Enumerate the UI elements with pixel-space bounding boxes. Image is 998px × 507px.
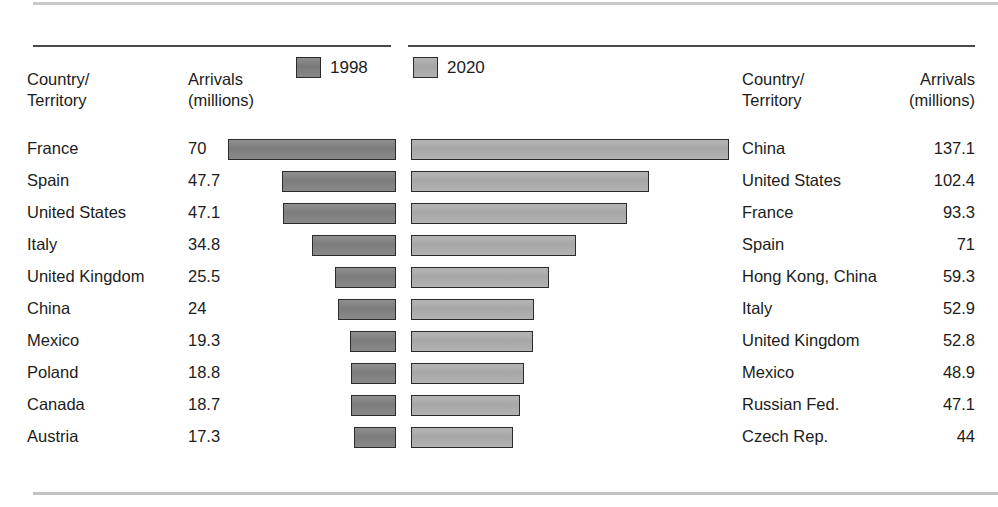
right-arrivals-value: 137.1 [886,138,975,159]
bar-2020 [411,427,513,448]
tourism-arrivals-figure: Country/ Territory Arrivals (millions) C… [0,0,998,507]
left-arrivals-value: 18.8 [188,362,220,383]
legend-swatch-2020-icon [413,57,438,78]
left-arrivals-value: 47.7 [188,170,220,191]
bar-2020 [411,139,729,160]
bar-1998 [350,331,396,352]
bar-1998 [335,267,396,288]
right-country-label: Russian Fed. [742,394,839,415]
legend-item-1998: 1998 [296,57,368,78]
table-row: Austria17.3Czech Rep.44 [0,424,998,456]
right-arrivals-value: 93.3 [886,202,975,223]
right-arrivals-value: 52.8 [886,330,975,351]
bar-2020 [411,171,649,192]
bar-1998 [351,363,396,384]
bar-2020 [411,267,549,288]
right-country-label: Italy [742,298,772,319]
right-arrivals-value: 48.9 [886,362,975,383]
right-country-label: Hong Kong, China [742,266,877,287]
bar-2020 [411,203,627,224]
header-right-arrivals: Arrivals (millions) [886,69,975,111]
right-country-label: Spain [742,234,784,255]
table-row: France70China137.1 [0,136,998,168]
left-country-label: Canada [27,394,85,415]
bar-1998 [283,203,396,224]
left-arrivals-value: 17.3 [188,426,220,447]
legend-item-2020: 2020 [413,57,485,78]
right-arrivals-value: 52.9 [886,298,975,319]
left-country-label: Spain [27,170,69,191]
left-country-label: United States [27,202,126,223]
table-row: United Kingdom25.5Hong Kong, China59.3 [0,264,998,296]
header-right-country: Country/ Territory [742,69,804,111]
bar-1998 [228,139,396,160]
right-country-label: China [742,138,785,159]
right-country-label: France [742,202,793,223]
left-arrivals-value: 25.5 [188,266,220,287]
table-row: Canada18.7Russian Fed.47.1 [0,392,998,424]
right-country-label: Czech Rep. [742,426,828,447]
right-arrivals-value: 71 [886,234,975,255]
bottom-divider [33,492,998,495]
bar-2020 [411,363,524,384]
table-row: Spain47.7United States102.4 [0,168,998,200]
bar-1998 [338,299,396,320]
bar-2020 [411,235,576,256]
left-country-label: China [27,298,70,319]
table-row: Italy34.8Spain71 [0,232,998,264]
bar-1998 [312,235,396,256]
right-country-label: United Kingdom [742,330,859,351]
left-country-label: Italy [27,234,57,255]
table-row: Poland18.8Mexico48.9 [0,360,998,392]
bar-2020 [411,299,534,320]
left-arrivals-value: 24 [188,298,206,319]
right-arrivals-value: 102.4 [886,170,975,191]
right-arrivals-value: 44 [886,426,975,447]
left-arrivals-value: 19.3 [188,330,220,351]
bar-2020 [411,331,533,352]
legend-swatch-1998-icon [296,57,321,78]
right-country-label: United States [742,170,841,191]
table-row: Mexico19.3United Kingdom52.8 [0,328,998,360]
right-country-label: Mexico [742,362,794,383]
header-divider-right [408,45,975,47]
bar-2020 [411,395,520,416]
left-arrivals-value: 34.8 [188,234,220,255]
header-left-country: Country/ Territory [27,69,89,111]
bar-1998 [282,171,396,192]
right-arrivals-value: 59.3 [886,266,975,287]
left-country-label: Mexico [27,330,79,351]
legend-label-2020: 2020 [447,58,485,78]
header-divider-left [33,45,391,47]
header-left-arrivals: Arrivals (millions) [188,69,254,111]
bar-1998 [351,395,396,416]
table-row: China24Italy52.9 [0,296,998,328]
left-country-label: Poland [27,362,78,383]
left-arrivals-value: 70 [188,138,206,159]
table-row: United States47.1France93.3 [0,200,998,232]
top-divider [33,2,998,5]
left-country-label: United Kingdom [27,266,144,287]
left-arrivals-value: 18.7 [188,394,220,415]
right-arrivals-value: 47.1 [886,394,975,415]
left-country-label: Austria [27,426,78,447]
legend-label-1998: 1998 [330,58,368,78]
left-country-label: France [27,138,78,159]
left-arrivals-value: 47.1 [188,202,220,223]
bar-1998 [354,427,396,448]
